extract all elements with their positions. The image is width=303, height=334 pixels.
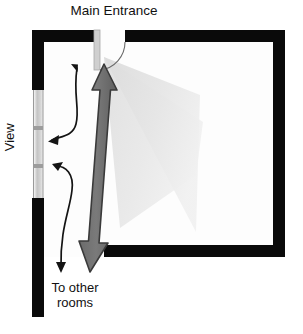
- door-leaf-icon: [94, 30, 100, 70]
- to-other-rooms-label: To other rooms: [34, 281, 116, 310]
- floor-plan-diagram: Main Entrance View To other rooms: [0, 0, 303, 334]
- wall-right: [273, 30, 285, 257]
- to-other-rooms-line-1: To other: [34, 281, 116, 296]
- wall-top-right: [125, 30, 285, 42]
- wall-bottom: [104, 245, 285, 257]
- page-title: Main Entrance: [0, 3, 228, 18]
- window-icon: [34, 90, 43, 198]
- to-other-rooms-line-2: rooms: [34, 296, 116, 311]
- window-mullion-upper: [34, 126, 43, 130]
- view-label: View: [3, 115, 18, 159]
- wall-left-upper: [32, 30, 44, 90]
- window-mullion-lower: [34, 164, 43, 168]
